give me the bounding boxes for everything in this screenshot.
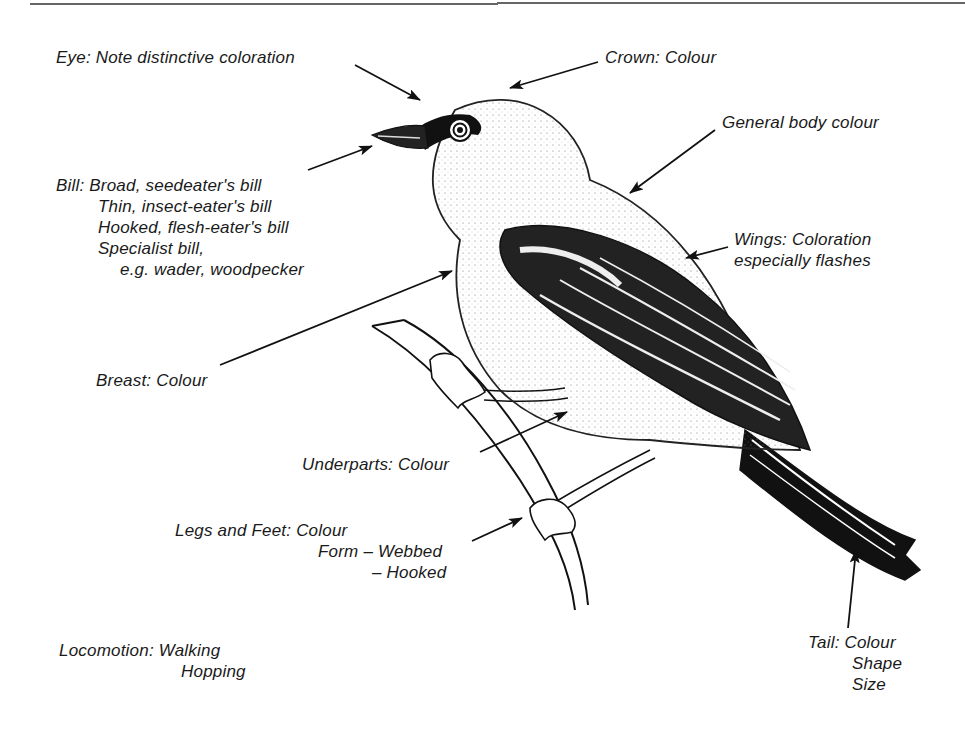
arrow-breast bbox=[220, 271, 452, 365]
arrow-crown bbox=[510, 62, 598, 88]
label-legs-line-3: – Hooked bbox=[175, 562, 446, 583]
label-wings-line-1: Wings: Coloration bbox=[734, 229, 871, 250]
label-crown-line: Crown: Colour bbox=[605, 47, 716, 68]
label-bill: Bill: Broad, seedeater's bill Thin, inse… bbox=[56, 175, 304, 280]
label-eye-line: Eye: Note distinctive coloration bbox=[56, 47, 295, 68]
label-eye: Eye: Note distinctive coloration bbox=[56, 47, 295, 68]
label-underparts-line: Underparts: Colour bbox=[302, 454, 449, 475]
label-underparts: Underparts: Colour bbox=[302, 454, 449, 475]
arrow-bill bbox=[308, 146, 372, 170]
label-crown: Crown: Colour bbox=[605, 47, 716, 68]
label-body-line: General body colour bbox=[722, 112, 879, 133]
label-bill-line-5: e.g. wader, woodpecker bbox=[56, 259, 304, 280]
arrow-wings bbox=[686, 247, 728, 258]
arrow-eye bbox=[355, 65, 420, 100]
label-locomotion-line-2: Hopping bbox=[59, 661, 246, 682]
label-tail-line-1: Tail: Colour bbox=[808, 632, 902, 653]
label-general-body: General body colour bbox=[722, 112, 879, 133]
label-bill-line-3: Hooked, flesh-eater's bill bbox=[56, 217, 304, 238]
label-breast: Breast: Colour bbox=[96, 370, 207, 391]
label-legs-line-1: Legs and Feet: Colour bbox=[175, 520, 446, 541]
label-tail: Tail: Colour Shape Size bbox=[808, 632, 902, 695]
label-legs-feet: Legs and Feet: Colour Form – Webbed – Ho… bbox=[175, 520, 446, 583]
label-bill-line-2: Thin, insect-eater's bill bbox=[56, 196, 304, 217]
arrow-body bbox=[630, 130, 715, 193]
label-bill-line-1: Bill: Broad, seedeater's bill bbox=[56, 175, 304, 196]
label-tail-line-2: Shape bbox=[808, 653, 902, 674]
label-breast-line: Breast: Colour bbox=[96, 370, 207, 391]
label-wings: Wings: Coloration especially flashes bbox=[734, 229, 871, 271]
arrow-legs bbox=[472, 518, 522, 541]
label-legs-line-2: Form – Webbed bbox=[175, 541, 446, 562]
bird-illustration bbox=[0, 0, 965, 735]
arrow-tail bbox=[848, 550, 856, 628]
label-tail-line-3: Size bbox=[808, 674, 902, 695]
label-bill-line-4: Specialist bill, bbox=[56, 238, 304, 259]
label-wings-line-2: especially flashes bbox=[734, 250, 871, 271]
label-locomotion-line-1: Locomotion: Walking bbox=[59, 640, 246, 661]
label-locomotion: Locomotion: Walking Hopping bbox=[59, 640, 246, 682]
arrow-underparts bbox=[480, 412, 567, 452]
